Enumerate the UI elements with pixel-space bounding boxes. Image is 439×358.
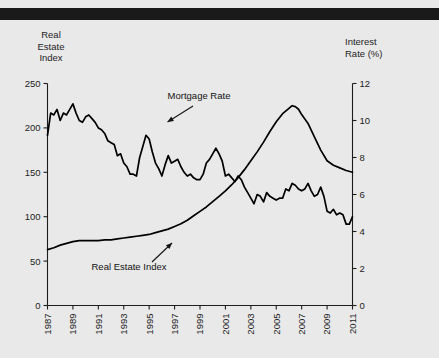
annotation-label: Real Estate Index <box>92 261 167 272</box>
left-tick-label: 200 <box>25 122 41 133</box>
left-tick-label: 50 <box>30 256 41 267</box>
right-tick-label: 2 <box>360 263 365 274</box>
right-tick-label: 10 <box>360 115 371 126</box>
x-tick-label: 1995 <box>144 314 155 335</box>
plot-area: 050100150200250 024681012 19871989199119… <box>0 0 439 358</box>
bottom-axis-ticks: 1987198919911993199519971999200120032005… <box>42 306 358 335</box>
annotation-label: Mortgage Rate <box>168 90 231 101</box>
x-tick-label: 2005 <box>271 314 282 335</box>
series-lines <box>48 104 353 250</box>
x-tick-label: 1999 <box>194 314 205 335</box>
annotation-arrowhead <box>168 117 174 122</box>
x-tick-label: 1997 <box>169 314 180 335</box>
left-axis-ticks: 050100150200250 <box>25 78 48 311</box>
right-tick-label: 8 <box>360 152 365 163</box>
x-tick-label: 1987 <box>42 314 53 335</box>
chart-figure: Real Estate Index Interest Rate (%) 0501… <box>0 0 439 358</box>
left-tick-label: 150 <box>25 167 41 178</box>
right-tick-label: 4 <box>360 226 365 237</box>
chart-annotations: Mortgage RateReal Estate Index <box>92 90 231 272</box>
x-tick-label: 1993 <box>118 314 129 335</box>
x-tick-label: 2001 <box>220 314 231 335</box>
x-tick-label: 2009 <box>321 314 332 335</box>
left-tick-label: 100 <box>25 211 41 222</box>
series-line-real-estate-index <box>48 106 353 250</box>
right-tick-label: 12 <box>360 78 371 89</box>
x-tick-label: 2011 <box>347 314 358 334</box>
x-tick-label: 2003 <box>245 314 256 335</box>
x-tick-label: 1989 <box>67 314 78 335</box>
left-tick-label: 0 <box>35 300 40 311</box>
x-tick-label: 2007 <box>296 314 307 335</box>
x-tick-label: 1991 <box>93 314 104 335</box>
right-tick-label: 0 <box>360 300 365 311</box>
left-tick-label: 250 <box>25 78 41 89</box>
right-axis-ticks: 024681012 <box>353 78 371 311</box>
right-tick-label: 6 <box>360 189 365 200</box>
